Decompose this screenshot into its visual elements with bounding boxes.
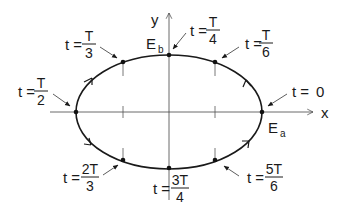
point-t3: [121, 60, 126, 65]
time-label-t23: t = 2T 3: [63, 161, 118, 194]
svg-text:T: T: [37, 75, 46, 91]
time-label-t4: t = T 4: [173, 14, 220, 49]
svg-text:T: T: [262, 27, 271, 43]
y-axis-label: y: [151, 11, 159, 28]
svg-text:2T: 2T: [82, 161, 99, 177]
svg-text:T: T: [209, 14, 218, 30]
svg-text:0: 0: [316, 83, 324, 100]
svg-text:2: 2: [37, 92, 45, 108]
svg-text:4: 4: [176, 189, 184, 205]
point-t23: [121, 158, 126, 163]
point-label-eb: E b: [146, 35, 164, 55]
time-label-t0: t = 0: [268, 83, 324, 106]
orbit-diagram: x y E a E b t = 0 t = T 6 t: [0, 0, 348, 212]
svg-text:a: a: [280, 128, 286, 139]
time-label-t34: t = 3T 4: [153, 172, 189, 205]
point-t56: [213, 158, 218, 163]
svg-text:t =: t =: [247, 169, 264, 186]
svg-text:t =: t =: [18, 83, 35, 100]
point-label-ea: E a: [268, 119, 286, 139]
svg-text:t =: t =: [292, 83, 309, 100]
time-label-t3: t = T 3: [65, 28, 117, 61]
point-t34: [167, 166, 172, 171]
svg-text:4: 4: [209, 31, 217, 47]
svg-text:t =: t =: [153, 180, 170, 197]
point-t2: [74, 110, 79, 115]
svg-text:5T: 5T: [266, 161, 283, 177]
svg-text:b: b: [158, 44, 164, 55]
x-axis-label: x: [321, 104, 329, 121]
svg-text:3: 3: [85, 45, 93, 61]
time-label-t56: t = 5T 6: [224, 161, 283, 194]
svg-text:t =: t =: [190, 22, 207, 39]
point-t6: [213, 60, 218, 65]
svg-text:6: 6: [270, 178, 278, 194]
svg-text:t =: t =: [63, 169, 80, 186]
point-t4: [167, 53, 172, 58]
svg-text:3: 3: [86, 178, 94, 194]
svg-text:E: E: [146, 35, 156, 52]
point-t0: [260, 110, 265, 115]
svg-text:6: 6: [262, 44, 270, 60]
svg-text:t =: t =: [65, 36, 82, 53]
time-label-t6: t = T 6: [222, 27, 273, 60]
svg-text:E: E: [268, 119, 278, 136]
svg-text:3T: 3T: [172, 172, 189, 188]
svg-text:T: T: [85, 28, 94, 44]
time-label-t2: t = T 2: [18, 75, 70, 108]
